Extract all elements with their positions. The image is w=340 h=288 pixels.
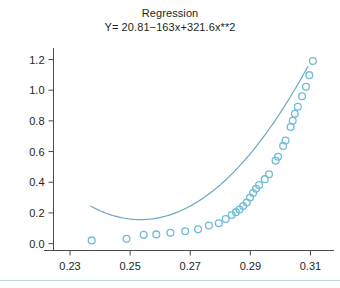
data-point — [291, 110, 298, 117]
x-tick-label: 0.31 — [300, 260, 321, 272]
data-point — [167, 229, 174, 236]
data-points — [88, 58, 316, 244]
footer-divider — [0, 280, 340, 281]
data-point — [306, 72, 313, 79]
y-axis-ticks: 0.00.20.40.60.81.01.2 — [29, 54, 53, 250]
data-point — [182, 228, 189, 235]
data-point — [123, 235, 130, 242]
data-point — [299, 93, 306, 100]
x-tick-label: 0.27 — [180, 260, 201, 272]
data-point — [195, 226, 202, 233]
x-tick-label: 0.23 — [59, 260, 80, 272]
data-point — [88, 237, 95, 244]
regression-curve — [90, 66, 308, 220]
chart-plot-area: 0.230.250.270.290.31 0.00.20.40.60.81.01… — [0, 0, 340, 288]
data-point — [266, 171, 273, 178]
x-tick-label: 0.25 — [119, 260, 140, 272]
y-tick-label: 0.4 — [29, 176, 44, 188]
data-point — [205, 222, 212, 229]
y-tick-label: 0.0 — [29, 238, 44, 250]
y-tick-label: 0.8 — [29, 115, 44, 127]
axes-group — [44, 48, 334, 251]
y-tick-label: 0.6 — [29, 146, 44, 158]
x-tick-label: 0.29 — [240, 260, 261, 272]
regression-figure: Regression Y= 20.81−163x+321.6x**2 0.230… — [0, 0, 340, 288]
data-point — [140, 231, 147, 238]
data-point — [153, 231, 160, 238]
data-point — [289, 117, 296, 124]
y-tick-label: 0.2 — [29, 207, 44, 219]
fitted-curve — [90, 66, 308, 220]
data-point — [309, 58, 316, 65]
y-tick-label: 1.0 — [29, 84, 44, 96]
y-tick-label: 1.2 — [29, 54, 44, 66]
x-axis-ticks: 0.230.250.270.290.31 — [59, 251, 321, 272]
data-point — [294, 103, 301, 110]
data-point — [303, 83, 310, 90]
data-point — [215, 220, 222, 227]
